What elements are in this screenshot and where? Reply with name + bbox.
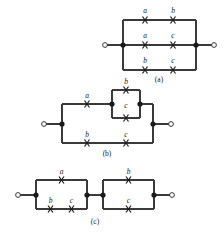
panel-c-node-mid-right: [100, 192, 105, 197]
panel-c-terminal-right[interactable]: [170, 193, 175, 198]
panel-b-node-inner-left: [109, 101, 114, 106]
panel-c-node-left: [33, 192, 38, 197]
panel-b-label-a: a: [85, 91, 89, 100]
panel-b-terminal-left[interactable]: [42, 122, 47, 127]
panel-c-label-c-left-bot: c: [70, 196, 74, 205]
panel-b-caption: (b): [103, 149, 112, 158]
switching-circuit-figure: a b a c b c (a): [0, 0, 224, 243]
panel-c: a b c b c (c): [16, 167, 175, 227]
panel-b-node-left: [59, 121, 64, 126]
panel-a-label-c-mid: c: [171, 31, 175, 40]
panel-a-node-left: [120, 42, 125, 47]
panel-b-node-inner-right: [137, 101, 142, 106]
panel-a-label-a-mid: a: [143, 31, 147, 40]
panel-a-caption: (a): [155, 75, 164, 84]
panel-a-label-b-top: b: [171, 6, 175, 15]
panel-c-label-b-left-bot: b: [49, 196, 53, 205]
panel-b-node-right: [150, 121, 155, 126]
panel-b-terminal-right[interactable]: [169, 122, 174, 127]
panel-b-label-b-lower: b: [85, 130, 89, 139]
panel-a-node-right: [193, 42, 198, 47]
panel-b-label-b-inner: b: [124, 77, 128, 86]
panel-a-label-c-bot: c: [171, 56, 175, 65]
panel-c-terminal-left[interactable]: [16, 193, 21, 198]
panel-c-label-b-right-top: b: [127, 167, 131, 176]
panel-c-node-right: [151, 192, 156, 197]
panel-a-label-a-top: a: [143, 6, 147, 15]
panel-c-caption: (c): [91, 217, 100, 226]
panel-a-terminal-right[interactable]: [212, 43, 217, 48]
panel-c-wires: [19, 180, 171, 209]
panel-a-label-b-bot: b: [143, 56, 147, 65]
panel-b-label-c-inner: c: [124, 101, 128, 110]
panel-a: a b a c b c (a): [103, 6, 217, 84]
panel-b: a b c b c (b): [42, 77, 174, 159]
panel-b-wires: [45, 90, 170, 143]
panel-a-terminal-left[interactable]: [103, 43, 108, 48]
panel-c-label-c-right-bot: c: [127, 196, 131, 205]
panel-b-label-c-lower: c: [124, 130, 128, 139]
panel-c-node-mid-left: [84, 192, 89, 197]
panel-c-label-a-left-top: a: [60, 167, 64, 176]
